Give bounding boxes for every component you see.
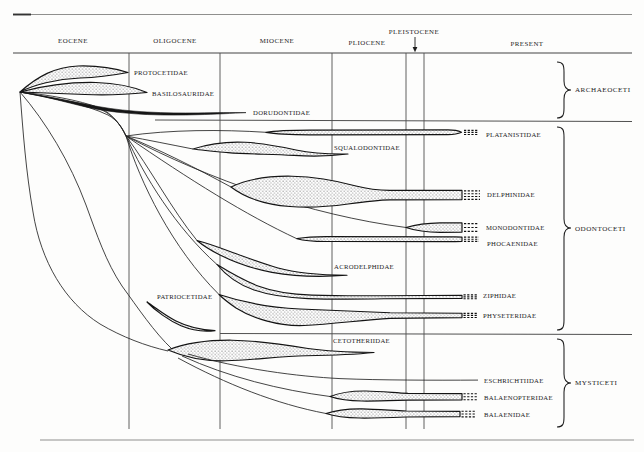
balaenidae-extant-dashes bbox=[462, 411, 477, 417]
epoch-label-oligocene: OLIGOCENE bbox=[153, 37, 196, 44]
family-label-cetotheriidae: CETOTHERIIDAE bbox=[333, 337, 390, 344]
figure-page: EOCENE OLIGOCENE MIOCENE PLIOCENE PLEIST… bbox=[0, 0, 644, 452]
squalodontidae-spindle bbox=[193, 142, 348, 156]
family-label-delphinidae: DELPHINIDAE bbox=[487, 191, 535, 198]
family-label-protocetidae: PROTOCETIDAE bbox=[134, 69, 188, 76]
epoch-label-present: PRESENT bbox=[510, 40, 543, 47]
physeteridae-extant-dashes bbox=[464, 313, 478, 317]
family-label-platanistidae: PLATANISTIDAE bbox=[486, 131, 541, 138]
epoch-label-eocene: EOCENE bbox=[58, 37, 88, 44]
balaenidae-spindle bbox=[326, 409, 460, 418]
acrodelphidae-spindle bbox=[197, 241, 347, 277]
odontoceti-mysticeti-divider bbox=[220, 334, 632, 335]
balaenopteridae-extant-dashes bbox=[464, 394, 478, 400]
monodontidae-extant-dashes bbox=[464, 224, 478, 232]
phocaenidae-extant-dashes bbox=[464, 237, 479, 241]
delphinidae-extant-dashes bbox=[464, 191, 480, 199]
epoch-label-pleistocene: PLEISTOCENE bbox=[389, 28, 439, 35]
family-label-patriocetidae: PATRIOCETIDAE bbox=[157, 293, 212, 300]
group-label-odontoceti: ODONTOCETI bbox=[575, 225, 626, 233]
family-label-ziphidae: ZIPHIDAE bbox=[483, 292, 516, 299]
phocaenidae-range-band bbox=[297, 237, 462, 242]
epoch-label-miocene: MIOCENE bbox=[260, 37, 295, 44]
mysticeti-brace bbox=[557, 339, 571, 427]
family-label-dorudontidae: DORUDONTIDAE bbox=[253, 109, 310, 116]
family-label-monodontidae: MONODONTIDAE bbox=[486, 224, 545, 231]
family-label-physeteridae: PHYSETERIDAE bbox=[483, 312, 536, 319]
group-label-archaeoceti: ARCHAEOCETI bbox=[575, 86, 631, 94]
epoch-label-pliocene: PLIOCENE bbox=[349, 39, 386, 46]
lineage-curve-mysticeti-stem-inner bbox=[20, 92, 172, 349]
family-label-squalodontidae: SQUALODONTIDAE bbox=[334, 144, 400, 151]
patriocetidae-spindle bbox=[147, 302, 215, 331]
odontoceti-brace bbox=[557, 127, 571, 330]
platanistidae-range-band bbox=[266, 130, 462, 135]
lineage-curve-balaenidae bbox=[178, 358, 326, 414]
family-label-phocaenidae: PHOCAENIDAE bbox=[487, 240, 538, 247]
pleistocene-arrow bbox=[413, 37, 418, 52]
lineage-curve-platanistidae bbox=[126, 131, 266, 136]
lineage-curve-odontoceti-bundle-3 bbox=[20, 92, 126, 136]
archaeoceti-brace bbox=[557, 62, 571, 118]
lineage-curve-mysticeti-stem-outer bbox=[20, 92, 168, 351]
cetacean-spindle-diagram: EOCENE OLIGOCENE MIOCENE PLIOCENE PLEIST… bbox=[0, 0, 644, 452]
ziphidae-extant-dashes bbox=[464, 295, 478, 299]
family-label-eschrichtiidae: ESCHRICHTIIDAE bbox=[484, 377, 544, 384]
family-label-basilosauridae: BASILOSAURIDAE bbox=[152, 90, 214, 97]
delphinidae-spindle bbox=[231, 176, 462, 207]
family-label-acrodelphidae: ACRODELPHIDAE bbox=[334, 263, 394, 270]
family-label-balaenidae: BALAENIDAE bbox=[484, 411, 530, 418]
monodontidae-range-band bbox=[406, 223, 462, 232]
group-label-mysticeti: MYSTICETI bbox=[575, 379, 617, 387]
platanistidae-extant-dashes bbox=[464, 130, 478, 134]
archaeoceti-odontoceti-divider bbox=[155, 120, 632, 122]
balaenopteridae-spindle bbox=[330, 391, 462, 401]
family-label-balaenopteridae: BALAENOPTERIDAE bbox=[484, 394, 553, 401]
